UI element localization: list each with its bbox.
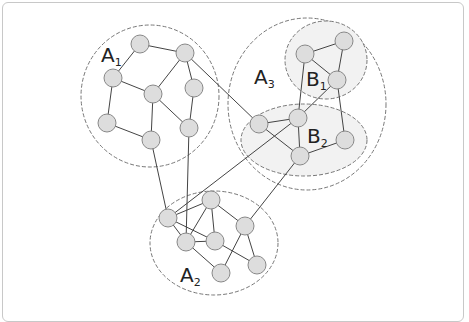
node [248, 256, 266, 274]
node [131, 35, 149, 53]
node [177, 233, 195, 251]
node [202, 191, 220, 209]
node [289, 109, 307, 127]
node [98, 114, 116, 132]
edge [151, 140, 168, 218]
label-a1: A1 [101, 43, 122, 69]
edge [186, 128, 189, 242]
node [104, 69, 122, 87]
node [291, 147, 309, 165]
node [250, 115, 268, 133]
node [185, 79, 203, 97]
node [212, 264, 230, 282]
node [336, 131, 354, 149]
node [236, 217, 254, 235]
node [328, 71, 346, 89]
node [206, 232, 224, 250]
node [180, 119, 198, 137]
label-a2: A2 [180, 263, 201, 289]
node [176, 44, 194, 62]
node [159, 209, 177, 227]
label-a3: A3 [254, 65, 275, 91]
node [144, 85, 162, 103]
node [142, 131, 160, 149]
node [335, 32, 353, 50]
node [296, 45, 314, 63]
